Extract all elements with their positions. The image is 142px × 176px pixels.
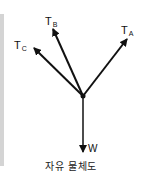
force-arrow-ta: [83, 39, 127, 96]
label-w: W: [88, 143, 97, 154]
label-tc: TC: [14, 39, 27, 52]
label-tb: TB: [45, 15, 57, 28]
force-arrow-tc: [34, 48, 83, 96]
force-arrow-tb: [53, 29, 83, 96]
label-ta: TA: [121, 24, 133, 37]
diagram-caption: 자유 물체도: [0, 158, 142, 173]
junction-point: [81, 94, 86, 99]
